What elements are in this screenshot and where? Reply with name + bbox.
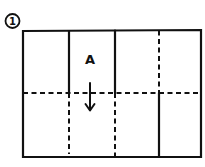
folding-diagram: 1 A xyxy=(0,0,205,167)
step-number: 1 xyxy=(9,16,16,27)
panel-label: A xyxy=(85,52,95,67)
arrow-down-icon xyxy=(86,83,95,111)
step-number-badge: 1 xyxy=(6,14,20,28)
